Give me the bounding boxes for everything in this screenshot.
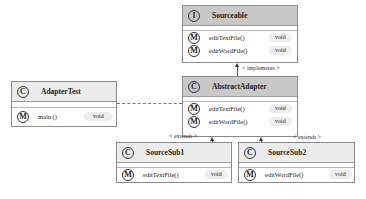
class-header: C SourceSub2	[239, 143, 354, 163]
class-source-sub1[interactable]: C SourceSub1 M editTextFile() void	[116, 142, 232, 183]
class-header: C AbstractAdapter	[183, 77, 297, 97]
class-sourceable[interactable]: I Sourceable M editTextFile() void M edi…	[182, 5, 298, 63]
extends-label-sub1: < extends >	[169, 133, 197, 139]
class-header: C SourceSub1	[117, 143, 231, 163]
class-header: I Sourceable	[183, 6, 297, 26]
extends-label-sub2: < extends >	[293, 134, 321, 140]
return-type: void	[269, 33, 292, 42]
method-name: editWordFile()	[209, 47, 269, 54]
method-row[interactable]: M editWordFile() void	[183, 44, 297, 57]
method-name: editWordFile()	[209, 118, 269, 125]
method-row[interactable]: M editTextFile() void	[183, 31, 297, 44]
method-row[interactable]: M main () void	[12, 108, 116, 125]
return-type: void	[84, 112, 113, 121]
return-type: void	[269, 104, 292, 113]
extends-arrowhead-sub2	[259, 137, 263, 141]
method-name: editTextFile()	[209, 34, 269, 41]
method-row[interactable]: M editWordFile() void	[183, 115, 297, 128]
method-icon: M	[188, 45, 200, 57]
class-abstract-adapter[interactable]: C AbstractAdapter M editTextFile() void …	[182, 76, 298, 137]
method-icon: M	[188, 116, 200, 128]
return-type: void	[329, 170, 352, 179]
class-icon: C	[122, 147, 134, 159]
method-icon: M	[188, 103, 200, 115]
method-icon: M	[244, 169, 256, 181]
class-source-sub2[interactable]: C SourceSub2 M editWordFile() void	[238, 142, 355, 183]
interface-icon: I	[188, 10, 200, 22]
class-name: SourceSub2	[268, 148, 306, 157]
implements-arrowhead	[235, 63, 239, 67]
implements-label: < implements >	[242, 65, 280, 71]
return-type: void	[269, 46, 292, 55]
return-type: void	[269, 117, 292, 126]
method-name: editWordFile()	[265, 171, 329, 178]
extends-arrowhead-sub1	[210, 137, 214, 141]
class-icon: C	[188, 81, 200, 93]
class-name: SourceSub1	[146, 148, 184, 157]
method-icon: M	[188, 32, 200, 44]
method-row[interactable]: M editWordFile() void	[239, 168, 354, 181]
method-name: editTextFile()	[143, 171, 205, 178]
class-name: AbstractAdapter	[212, 82, 267, 91]
class-header: C AdapterTest	[12, 82, 116, 102]
return-type: void	[205, 170, 228, 179]
method-name: editTextFile()	[209, 105, 269, 112]
class-icon: C	[17, 86, 29, 98]
dependency-connector	[117, 103, 182, 104]
method-row[interactable]: M editTextFile() void	[183, 102, 297, 115]
class-name: Sourceable	[212, 11, 247, 20]
method-row[interactable]: M editTextFile() void	[117, 168, 231, 181]
class-name: AdapterTest	[41, 87, 81, 96]
class-adapter-test[interactable]: C AdapterTest M main () void	[11, 81, 117, 127]
method-name: main ()	[38, 113, 84, 120]
method-icon: M	[17, 111, 29, 123]
class-icon: C	[244, 147, 256, 159]
method-icon: M	[122, 169, 134, 181]
